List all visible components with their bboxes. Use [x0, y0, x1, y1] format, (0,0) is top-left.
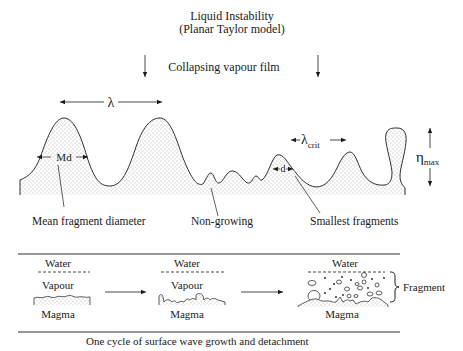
stage-3: Water	[296, 257, 445, 320]
lambda-crit-symbol: λcrit	[301, 132, 320, 150]
fragment-brace	[390, 272, 399, 302]
callout-non-growing: Non-growing	[191, 215, 253, 228]
wavelength-symbol: λ	[108, 95, 115, 110]
stage1-vapour-label: Vapour	[42, 279, 74, 291]
stage-1: Water Vapour Magma	[33, 257, 91, 320]
caption: One cycle of surface wave growth and det…	[86, 335, 309, 347]
title-line2: (Planar Taylor model)	[179, 22, 285, 36]
stage2-magma-label: Magma	[170, 308, 204, 320]
title-line1: Liquid Instability	[190, 9, 274, 23]
stage1-water-label: Water	[45, 257, 71, 269]
d-label: d	[281, 163, 286, 174]
callout-mean-fragment-diameter: Mean fragment diameter	[32, 215, 146, 228]
stage2-magma-surface	[159, 294, 225, 306]
callout-smallest-fragments: Smallest fragments	[310, 215, 399, 228]
fragments-cloud	[308, 273, 382, 302]
liquid-instability-diagram: Liquid Instability (Planar Taylor model)…	[0, 0, 463, 351]
stage3-water-label: Water	[332, 257, 358, 269]
stage1-magma-label: Magma	[41, 308, 75, 320]
stage1-magma-surface	[34, 295, 90, 306]
md-label: Md	[56, 151, 72, 163]
stage-2: Water Vapour Magma	[158, 257, 226, 320]
magma-wave-surface	[20, 118, 406, 197]
fragment-label: Fragment	[403, 281, 445, 293]
stage3-magma-label: Magma	[325, 308, 359, 320]
collapsing-vapour-label: Collapsing vapour film	[168, 60, 280, 74]
eta-max-symbol: ηmax	[416, 149, 440, 167]
stage2-vapour-label: Vapour	[171, 279, 203, 291]
stage2-water-label: Water	[174, 257, 200, 269]
